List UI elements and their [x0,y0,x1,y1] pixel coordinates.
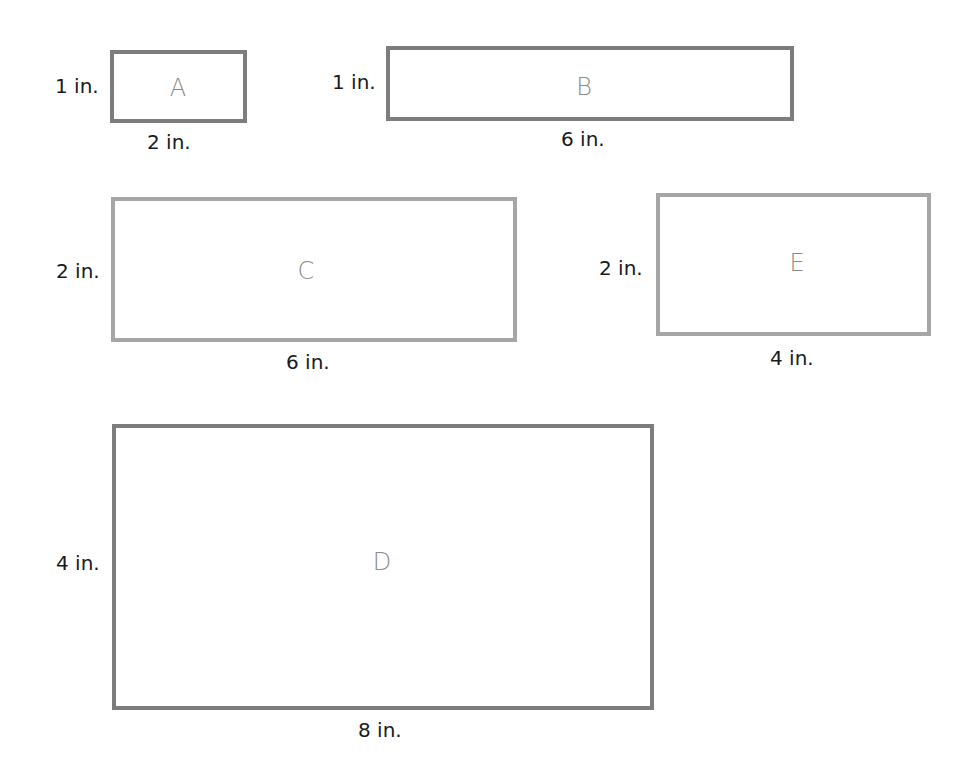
rect-c-height-label: 2 in. [56,259,100,283]
rect-e-width-label: 4 in. [770,346,814,370]
rect-e-height-label: 2 in. [599,256,643,280]
rect-c-letter: C [298,257,315,285]
rect-d-height-label: 4 in. [56,551,100,575]
rect-e-letter: E [789,249,804,277]
rect-d-width-label: 8 in. [358,718,402,742]
rect-a-width-label: 2 in. [147,130,191,154]
rect-b-letter: B [576,73,592,101]
rect-b-height-label: 1 in. [332,70,376,94]
rect-b-width-label: 6 in. [561,127,605,151]
rect-a-height-label: 1 in. [55,74,99,98]
rect-a-letter: A [170,74,186,102]
rect-c-width-label: 6 in. [286,350,330,374]
rect-d-letter: D [373,548,391,576]
